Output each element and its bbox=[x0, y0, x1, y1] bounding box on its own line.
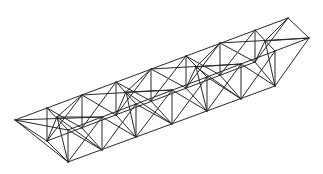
web-diagonal bbox=[126, 69, 151, 92]
web-diagonal bbox=[57, 95, 82, 117]
web-diagonal bbox=[255, 41, 265, 62]
web-diagonal bbox=[265, 18, 288, 41]
bottom-strut bbox=[47, 141, 68, 162]
right-end-member bbox=[288, 18, 309, 38]
truss-diagram bbox=[0, 0, 323, 174]
left-end-member bbox=[15, 120, 68, 162]
truss-members bbox=[15, 18, 309, 162]
right-end-member bbox=[275, 38, 309, 86]
